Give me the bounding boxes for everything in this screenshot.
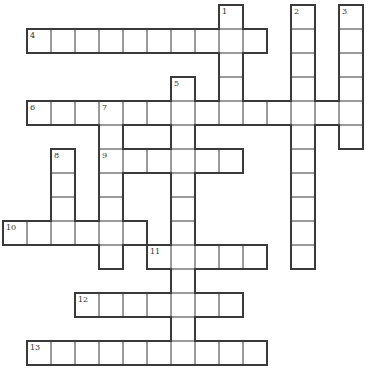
crossword-cell[interactable]: 12 (75, 293, 99, 317)
crossword-cell[interactable] (339, 125, 363, 149)
crossword-cell[interactable] (219, 101, 243, 125)
crossword-cell[interactable] (99, 293, 123, 317)
crossword-cell[interactable]: 10 (3, 221, 27, 245)
crossword-cell[interactable] (123, 149, 147, 173)
crossword-cell[interactable] (171, 101, 195, 125)
grid-border (362, 100, 364, 126)
crossword-cell[interactable] (171, 221, 195, 245)
crossword-cell[interactable] (147, 149, 171, 173)
crossword-cell[interactable] (147, 293, 171, 317)
crossword-cell[interactable]: 7 (99, 101, 123, 125)
crossword-cell[interactable] (171, 317, 195, 341)
crossword-cell[interactable] (99, 341, 123, 365)
crossword-cell[interactable] (291, 125, 315, 149)
crossword-cell[interactable] (219, 77, 243, 101)
crossword-cell[interactable] (171, 245, 195, 269)
crossword-cell[interactable] (123, 221, 147, 245)
crossword-cell[interactable] (219, 293, 243, 317)
crossword-cell[interactable] (219, 245, 243, 269)
grid-border (74, 28, 100, 30)
crossword-cell[interactable] (291, 101, 315, 125)
crossword-cell[interactable] (219, 53, 243, 77)
crossword-cell[interactable] (339, 101, 363, 125)
crossword-cell[interactable] (75, 341, 99, 365)
crossword-cell[interactable] (171, 293, 195, 317)
crossword-cell[interactable] (51, 29, 75, 53)
crossword-cell[interactable] (171, 269, 195, 293)
crossword-cell[interactable]: 5 (171, 77, 195, 101)
crossword-cell[interactable] (315, 101, 339, 125)
grid-border (314, 52, 316, 78)
crossword-cell[interactable] (171, 197, 195, 221)
crossword-cell[interactable] (219, 29, 243, 53)
crossword-cell[interactable] (291, 149, 315, 173)
crossword-cell[interactable]: 3 (339, 5, 363, 29)
crossword-cell[interactable] (171, 149, 195, 173)
crossword-cell[interactable] (99, 125, 123, 149)
crossword-cell[interactable] (243, 245, 267, 269)
grid-border (266, 340, 268, 366)
crossword-cell[interactable] (99, 29, 123, 53)
crossword-cell[interactable] (195, 101, 219, 125)
crossword-cell[interactable] (267, 101, 291, 125)
crossword-cell[interactable] (147, 341, 171, 365)
grid-border (194, 28, 220, 30)
grid-border (170, 268, 172, 294)
crossword-cell[interactable] (339, 77, 363, 101)
crossword-cell[interactable] (147, 29, 171, 53)
crossword-cell[interactable] (123, 341, 147, 365)
crossword-cell[interactable]: 2 (291, 5, 315, 29)
crossword-cell[interactable] (147, 101, 171, 125)
crossword-cell[interactable]: 11 (147, 245, 171, 269)
crossword-cell[interactable] (51, 173, 75, 197)
crossword-cell[interactable] (99, 245, 123, 269)
grid-border (26, 340, 52, 342)
crossword-cell[interactable] (51, 341, 75, 365)
crossword-cell[interactable] (51, 221, 75, 245)
crossword-cell[interactable] (291, 197, 315, 221)
crossword-cell[interactable] (195, 293, 219, 317)
crossword-cell[interactable]: 13 (27, 341, 51, 365)
crossword-cell[interactable] (123, 29, 147, 53)
crossword-cell[interactable] (291, 29, 315, 53)
crossword-cell[interactable] (75, 29, 99, 53)
grid-border (50, 364, 76, 366)
crossword-cell[interactable] (195, 341, 219, 365)
crossword-cell[interactable] (291, 221, 315, 245)
crossword-cell[interactable] (219, 149, 243, 173)
crossword-cell[interactable] (195, 245, 219, 269)
crossword-cell[interactable] (243, 101, 267, 125)
grid-border (50, 52, 76, 54)
crossword-cell[interactable] (291, 53, 315, 77)
crossword-cell[interactable] (171, 29, 195, 53)
crossword-cell[interactable] (339, 53, 363, 77)
crossword-cell[interactable]: 8 (51, 149, 75, 173)
crossword-cell[interactable] (171, 173, 195, 197)
crossword-cell[interactable] (99, 197, 123, 221)
crossword-cell[interactable] (27, 221, 51, 245)
crossword-cell[interactable] (51, 101, 75, 125)
crossword-cell[interactable] (123, 101, 147, 125)
crossword-cell[interactable] (195, 29, 219, 53)
crossword-cell[interactable] (75, 221, 99, 245)
crossword-cell[interactable] (171, 125, 195, 149)
crossword-cell[interactable] (51, 197, 75, 221)
crossword-cell[interactable]: 6 (27, 101, 51, 125)
crossword-cell[interactable] (99, 173, 123, 197)
crossword-cell[interactable] (243, 341, 267, 365)
crossword-cell[interactable] (171, 341, 195, 365)
crossword-cell[interactable]: 1 (219, 5, 243, 29)
crossword-cell[interactable]: 9 (99, 149, 123, 173)
crossword-cell[interactable] (75, 101, 99, 125)
crossword-cell[interactable] (291, 77, 315, 101)
crossword-cell[interactable] (123, 293, 147, 317)
crossword-cell[interactable] (291, 173, 315, 197)
crossword-cell[interactable] (291, 245, 315, 269)
crossword-cell[interactable]: 4 (27, 29, 51, 53)
crossword-cell[interactable] (219, 341, 243, 365)
crossword-cell[interactable] (339, 29, 363, 53)
crossword-cell[interactable] (195, 149, 219, 173)
crossword-cell[interactable] (243, 29, 267, 53)
grid-border (2, 220, 28, 222)
crossword-cell[interactable] (99, 221, 123, 245)
